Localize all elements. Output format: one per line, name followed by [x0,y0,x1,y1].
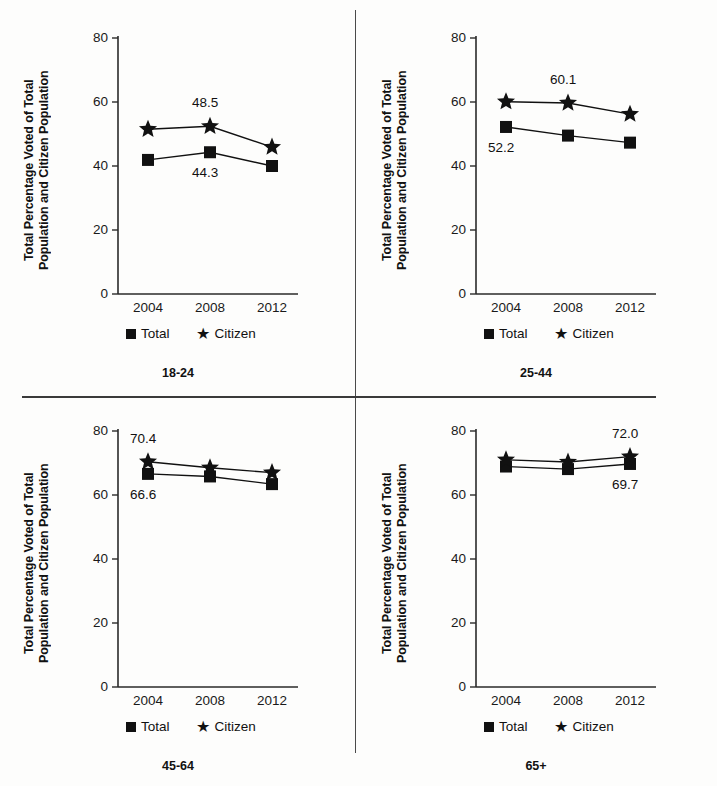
data-point-total-2008 [204,146,216,158]
x-tick-label: 2004 [478,301,534,315]
value-label: 48.5 [192,96,218,110]
legend-entry-total[interactable]: Total [484,719,528,734]
axes [118,429,298,687]
small-multiples-figure: Total Percentage Voted of Total Populati… [0,0,717,786]
series-line-total [148,474,272,484]
x-tick-label: 2008 [182,694,238,708]
panel-title: 65+ [358,759,714,773]
x-tick-label: 2008 [540,694,596,708]
data-point-citizen-2004 [139,452,157,469]
legend-label-total: Total [141,719,170,734]
data-point-citizen-2004 [497,450,515,467]
square-marker-icon [484,722,494,732]
square-marker-icon [484,329,494,339]
y-tick-label: 40 [70,159,108,173]
y-tick-label: 80 [428,31,466,45]
panel-title: 45-64 [0,759,356,773]
legend-entry-citizen[interactable]: ★Citizen [196,719,256,734]
y-tick-label: 60 [428,488,466,502]
star-marker-icon: ★ [196,722,210,732]
panel-18-24: Total Percentage Voted of Total Populati… [0,0,356,393]
value-label: 72.0 [612,427,638,441]
y-tick-label: 60 [428,95,466,109]
series-line-citizen [506,102,630,114]
y-tick-label: 80 [70,31,108,45]
series-line-citizen [506,457,630,462]
legend-label-citizen: Citizen [573,719,614,734]
legend-entry-citizen[interactable]: ★Citizen [196,326,256,341]
y-tick-label: 0 [70,680,108,694]
x-tick-label: 2012 [602,694,658,708]
panel-25-44: Total Percentage Voted of Total Populati… [358,0,714,393]
data-point-total-2004 [500,461,512,473]
data-point-citizen-2004 [139,120,157,137]
legend-label-total: Total [141,326,170,341]
x-tick-label: 2008 [540,301,596,315]
legend: Total★Citizen [126,326,256,341]
y-tick-label: 0 [428,287,466,301]
panel-body-3: Total Percentage Voted of Total Populati… [358,393,714,786]
y-tick-label: 20 [428,616,466,630]
star-marker-icon: ★ [196,329,210,339]
data-point-citizen-2012 [263,463,281,480]
x-tick-label: 2012 [244,694,300,708]
panel-body-0: Total Percentage Voted of Total Populati… [0,0,356,393]
data-point-total-2012 [266,478,278,490]
data-point-total-2008 [562,463,574,475]
data-point-citizen-2012 [621,105,639,122]
data-point-total-2004 [500,121,512,133]
panel-title: 25-44 [358,366,714,380]
data-point-citizen-2012 [263,138,281,155]
y-tick-label: 0 [70,287,108,301]
legend-label-total: Total [499,719,528,734]
y-tick-label: 0 [428,680,466,694]
data-point-total-2004 [142,154,154,166]
series-line-citizen [148,462,272,473]
data-point-citizen-2008 [201,117,219,134]
x-tick-label: 2004 [478,694,534,708]
legend-label-total: Total [499,326,528,341]
y-tick-label: 80 [70,424,108,438]
y-tick-label: 20 [428,223,466,237]
legend-entry-total[interactable]: Total [126,326,170,341]
legend-entry-citizen[interactable]: ★Citizen [554,719,614,734]
data-point-citizen-2008 [201,458,219,475]
legend-label-citizen: Citizen [215,326,256,341]
y-tick-label: 20 [70,223,108,237]
value-label: 52.2 [488,141,514,155]
y-tick-label: 40 [428,159,466,173]
legend: Total★Citizen [484,326,614,341]
series-line-total [506,464,630,469]
data-point-citizen-2008 [559,93,577,110]
square-marker-icon [126,722,136,732]
y-axis-label: Total Percentage Voted of Total Populati… [380,431,410,695]
legend: Total★Citizen [126,719,256,734]
legend-label-citizen: Citizen [573,326,614,341]
star-marker-icon: ★ [554,722,568,732]
data-point-total-2008 [562,130,574,142]
data-point-total-2012 [624,137,636,149]
data-point-total-2004 [142,468,154,480]
series-line-total [148,152,272,166]
value-label: 69.7 [612,478,638,492]
legend-entry-total[interactable]: Total [484,326,528,341]
y-axis-label: Total Percentage Voted of Total Populati… [380,38,410,302]
data-point-citizen-2008 [559,453,577,470]
value-label: 70.4 [130,432,156,446]
legend-entry-total[interactable]: Total [126,719,170,734]
panel-body-1: Total Percentage Voted of Total Populati… [358,0,714,393]
panel-45-64: Total Percentage Voted of Total Populati… [0,393,356,786]
data-point-citizen-2012 [621,447,639,464]
panel-title: 18-24 [0,366,356,380]
panel-65-plus: Total Percentage Voted of Total Populati… [358,393,714,786]
value-label: 44.3 [192,166,218,180]
y-axis-label: Total Percentage Voted of Total Populati… [22,431,52,695]
y-tick-label: 60 [70,488,108,502]
y-tick-label: 80 [428,424,466,438]
y-axis-label: Total Percentage Voted of Total Populati… [22,38,52,302]
axes [476,429,656,687]
y-tick-label: 40 [428,552,466,566]
legend-entry-citizen[interactable]: ★Citizen [554,326,614,341]
y-tick-label: 40 [70,552,108,566]
x-tick-label: 2012 [244,301,300,315]
